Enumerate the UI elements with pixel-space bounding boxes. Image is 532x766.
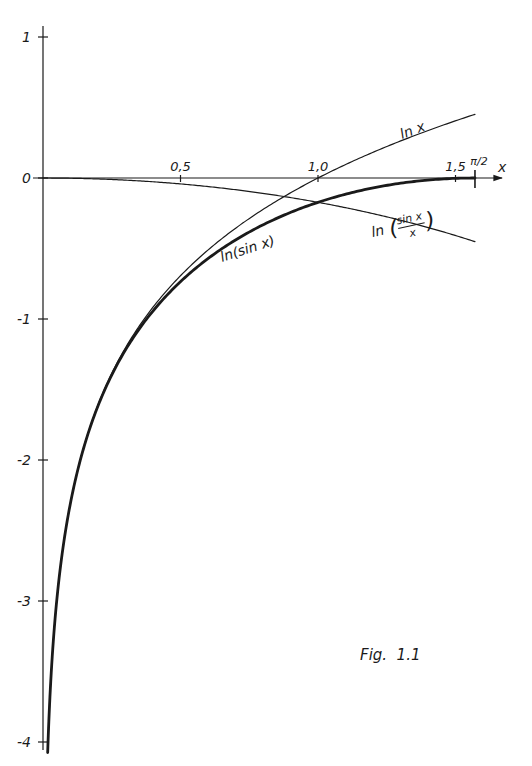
axes xyxy=(33,26,502,750)
x-axis-ticks: 0,51,01,5π/2 xyxy=(170,155,487,188)
label-ln-x: ln x xyxy=(398,118,428,142)
svg-text:x: x xyxy=(407,226,418,240)
y-tick-label: -2 xyxy=(17,452,31,468)
figure-1-1-chart: 10-1-2-3-4 0,51,01,5π/2 x ln x ln(sin x)… xyxy=(0,0,532,766)
y-tick-label: 1 xyxy=(22,29,31,45)
svg-text:ln: ln xyxy=(370,222,386,240)
y-tick-label: 0 xyxy=(22,170,31,186)
label-ln-sinx-over-x: ln ( sin x x ) xyxy=(369,207,438,248)
x-tick-label: 1,0 xyxy=(308,159,329,174)
figure-caption: Fig. 1.1 xyxy=(360,646,420,664)
label-ln-sin-x: ln(sin x) xyxy=(218,232,277,265)
y-tick-label: -4 xyxy=(17,734,31,750)
svg-text:): ) xyxy=(422,207,438,234)
x-tick-label: 1,5 xyxy=(445,159,466,174)
curve-ln-sin-x xyxy=(48,178,475,753)
x-axis-label: x xyxy=(497,159,507,175)
x-tick-label: π/2 xyxy=(470,155,487,168)
y-tick-label: -3 xyxy=(17,593,31,609)
y-tick-label: -1 xyxy=(17,311,31,327)
x-tick-label: 0,5 xyxy=(170,159,191,174)
